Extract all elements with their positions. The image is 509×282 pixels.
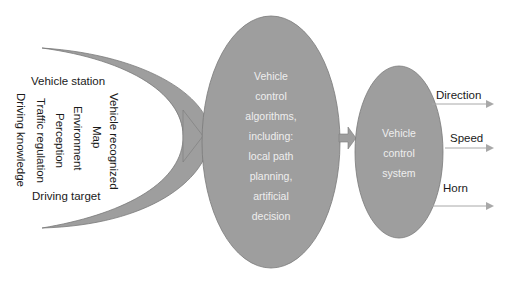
input-label-traffic-regulation: Traffic regulation [34, 98, 46, 183]
algorithms-node-text: Vehicle control algorithms, including: l… [221, 66, 321, 226]
output-label-horn: Horn [443, 183, 468, 195]
control-line: control [369, 143, 429, 163]
input-label-driving-target: Driving target [32, 191, 100, 203]
algorithms-line: control [221, 86, 321, 106]
control-line: system [369, 163, 429, 183]
control-line: Vehicle [369, 123, 429, 143]
input-label-vehicle-station: Vehicle station [31, 76, 105, 88]
output-label-speed: Speed [450, 133, 483, 145]
algorithms-line: including: [221, 126, 321, 146]
algorithms-line: planning, [221, 166, 321, 186]
control-system-node-text: Vehicle control system [369, 123, 429, 183]
algorithms-line: local path [221, 146, 321, 166]
algorithms-line: Vehicle [221, 66, 321, 86]
input-label-vehicle-recognized: Vehicle recognized [107, 93, 119, 190]
output-label-direction: Direction [436, 90, 481, 102]
output-arrow-horn-icon [432, 202, 494, 210]
algorithms-line: decision [221, 206, 321, 226]
input-label-environment: Environment [71, 106, 83, 171]
algorithms-line: algorithms, [221, 106, 321, 126]
input-label-driving-knowledge: Driving knowledge [14, 93, 26, 187]
input-label-perception: Perception [53, 113, 65, 168]
arrow-to-control-system-icon [339, 127, 356, 149]
algorithms-line: artificial [221, 186, 321, 206]
output-arrow-speed-icon [445, 144, 494, 152]
input-label-map: Map [90, 126, 102, 148]
